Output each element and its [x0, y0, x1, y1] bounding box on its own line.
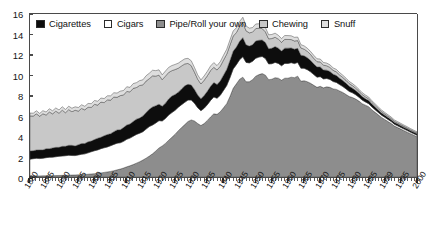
legend-label: Pipe/Roll your own: [169, 19, 246, 29]
x-tick-label: 1930: [183, 170, 201, 191]
x-tick-label: 1965: [296, 170, 314, 191]
legend-swatch-icon: [104, 20, 113, 29]
legend-swatch-icon: [259, 20, 268, 29]
x-tick-label: 1890: [54, 170, 72, 191]
x-axis-labels: 1880188518901895190019051910191519201925…: [0, 0, 432, 229]
x-tick-label: 1910: [119, 170, 137, 191]
x-tick-label: 1935: [199, 170, 217, 191]
chart-legend: CigarettesCigarsPipe/Roll your ownChewin…: [36, 17, 368, 32]
x-tick-label: 1950: [248, 170, 266, 191]
x-tick-label: 1960: [280, 170, 298, 191]
legend-item-cigars[interactable]: Cigars: [104, 19, 144, 29]
x-tick-label: 1880: [22, 170, 40, 191]
x-tick-label: 1940: [216, 170, 234, 191]
x-tick-label: 2000: [410, 170, 428, 191]
x-tick-label: 1985: [361, 170, 379, 191]
legend-swatch-icon: [36, 20, 45, 29]
legend-label: Chewing: [272, 19, 308, 29]
legend-swatch-icon: [321, 20, 330, 29]
x-tick-label: 1970: [313, 170, 331, 191]
legend-item-chewing[interactable]: Chewing: [259, 19, 308, 29]
x-tick-label: 1999: [377, 170, 395, 191]
x-tick-label: 1915: [135, 170, 153, 191]
legend-label: Cigars: [117, 19, 144, 29]
x-tick-label: 1895: [70, 170, 88, 191]
legend-label: Snuff: [334, 19, 355, 29]
legend-item-cigarettes[interactable]: Cigarettes: [36, 19, 91, 29]
tobacco-consumption-stacked-area-chart: 0246810121416 18801885189018951900190519…: [0, 0, 432, 229]
x-tick-label: 1900: [86, 170, 104, 191]
x-tick-label: 1925: [167, 170, 185, 191]
legend-item-snuff[interactable]: Snuff: [321, 19, 355, 29]
x-tick-label: 1995: [393, 170, 411, 191]
x-tick-label: 1980: [345, 170, 363, 191]
legend-label: Cigarettes: [49, 19, 91, 29]
x-tick-label: 1975: [329, 170, 347, 191]
x-tick-label: 1905: [102, 170, 120, 191]
x-tick-label: 1920: [151, 170, 169, 191]
x-tick-label: 1885: [38, 170, 56, 191]
x-tick-label: 1955: [264, 170, 282, 191]
legend-item-pipe-roll-your-own[interactable]: Pipe/Roll your own: [156, 19, 246, 29]
legend-swatch-icon: [156, 20, 165, 29]
x-tick-label: 1945: [232, 170, 250, 191]
